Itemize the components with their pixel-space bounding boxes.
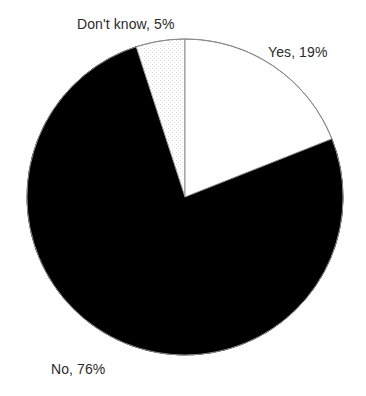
pie-label-no: No, 76%: [51, 361, 105, 377]
pie-label-yes: Yes, 19%: [268, 44, 327, 60]
pie-chart: Don't know, 5% Yes, 19% No, 76%: [0, 0, 366, 396]
pie-label-dont-know: Don't know, 5%: [77, 16, 174, 32]
